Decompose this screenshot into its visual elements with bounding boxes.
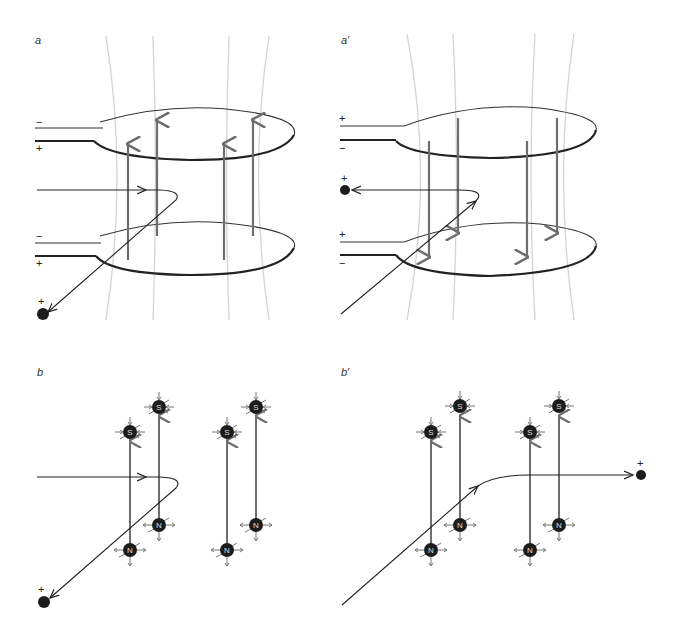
charge-dot	[38, 596, 50, 608]
lead-sign: +	[36, 257, 42, 269]
lead-sign: −	[339, 257, 345, 269]
lead-sign: −	[36, 230, 42, 242]
charge-sign: +	[38, 583, 44, 595]
charge-sign: +	[38, 295, 44, 307]
particle-trajectory	[37, 477, 178, 598]
panel-label-a-prime: a′	[341, 34, 350, 46]
charge-sign: +	[341, 172, 347, 184]
monopole-pairs	[130, 416, 256, 548]
charge-sign: +	[637, 457, 643, 469]
south-pole-icon	[544, 391, 574, 413]
north-pole-icon	[240, 518, 272, 541]
monopole-pairs	[431, 416, 559, 548]
lead-sign: +	[339, 112, 345, 124]
south-pole-icon	[115, 417, 145, 439]
north-pole-icon	[543, 518, 575, 541]
panel-a-prime: a′ + − + −	[339, 34, 596, 320]
charge-dot	[636, 470, 646, 480]
north-pole-icon	[514, 543, 546, 566]
panel-label-a: a	[35, 34, 41, 46]
south-pole-icon	[445, 391, 475, 413]
south-pole-icon	[416, 417, 446, 439]
north-pole-icon	[444, 518, 476, 541]
diagram-canvas: S N a − +	[0, 0, 675, 631]
panel-label-b: b	[37, 366, 43, 378]
lead-sign: −	[36, 116, 42, 128]
south-pole-icon	[515, 417, 545, 439]
panel-a: a − + − +	[35, 34, 295, 320]
north-pole-icon	[211, 543, 243, 566]
top-coil: − +	[35, 108, 295, 160]
charge-dot	[340, 185, 350, 195]
particle-trajectory	[342, 475, 633, 605]
south-pole-icon	[212, 417, 242, 439]
field-lines	[407, 34, 574, 320]
charge-dot	[37, 308, 49, 320]
panel-b-prime: b′ +	[341, 366, 646, 605]
panel-label-b-prime: b′	[341, 366, 350, 378]
field-lines	[106, 36, 269, 320]
north-pole-icon	[114, 543, 146, 566]
lead-sign: −	[339, 142, 345, 154]
bottom-coil: − +	[35, 222, 295, 275]
north-pole-icon	[143, 518, 175, 541]
panel-b: b +	[37, 366, 272, 608]
south-pole-icon	[241, 392, 271, 414]
south-pole-icon	[144, 392, 174, 414]
lead-sign: +	[339, 228, 345, 240]
lead-sign: +	[36, 142, 42, 154]
flux-arrows	[429, 118, 557, 257]
north-pole-icon	[415, 543, 447, 566]
